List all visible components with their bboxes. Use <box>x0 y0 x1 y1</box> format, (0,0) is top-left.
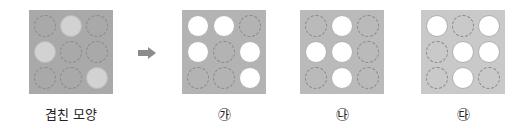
open-circle <box>305 41 327 63</box>
dashed-circle <box>86 15 108 37</box>
dashed-circle <box>357 15 379 37</box>
dashed-circle <box>86 41 108 63</box>
dashed-circle <box>34 15 56 37</box>
circle-grid <box>426 15 500 89</box>
circle-grid <box>305 15 379 89</box>
light-circle <box>60 15 82 37</box>
light-circle <box>34 41 56 63</box>
open-circle <box>187 15 209 37</box>
open-circle <box>239 67 261 89</box>
panel-overlap <box>29 10 113 94</box>
dashed-circle <box>213 67 235 89</box>
dashed-circle <box>60 41 82 63</box>
open-circle <box>478 41 500 63</box>
dashed-circle <box>60 67 82 89</box>
dashed-circle <box>305 15 327 37</box>
open-circle <box>331 15 353 37</box>
dashed-circle <box>426 67 448 89</box>
dashed-circle <box>478 67 500 89</box>
label-na: ㉯ <box>300 104 384 123</box>
dashed-circle <box>357 67 379 89</box>
dashed-circle <box>239 15 261 37</box>
panel-da <box>421 10 505 94</box>
dashed-circle <box>452 15 474 37</box>
light-circle <box>86 67 108 89</box>
open-circle <box>331 41 353 63</box>
open-circle <box>452 67 474 89</box>
right-arrow-icon <box>138 47 156 59</box>
dashed-circle <box>213 41 235 63</box>
label-da: ㉰ <box>421 104 505 123</box>
label-overlap: 겹친 모양 <box>29 104 113 123</box>
dashed-circle <box>187 67 209 89</box>
open-circle <box>331 67 353 89</box>
dashed-circle <box>305 67 327 89</box>
open-circle <box>478 15 500 37</box>
dashed-circle <box>357 41 379 63</box>
circle-grid <box>34 15 108 89</box>
open-circle <box>426 15 448 37</box>
open-circle <box>187 41 209 63</box>
dashed-circle <box>426 41 448 63</box>
open-circle <box>239 41 261 63</box>
open-circle <box>452 41 474 63</box>
dashed-circle <box>34 67 56 89</box>
panel-ga <box>182 10 266 94</box>
panel-na <box>300 10 384 94</box>
label-ga: ㉮ <box>182 104 266 123</box>
circle-grid <box>187 15 261 89</box>
open-circle <box>213 15 235 37</box>
